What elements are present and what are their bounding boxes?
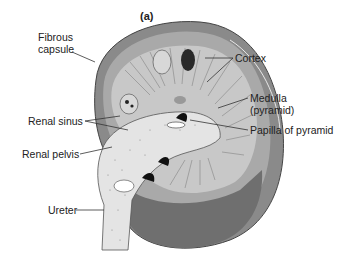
- label-fibrous-capsule-line1: Fibrous: [38, 31, 73, 43]
- label-medulla-line2: (pyramid): [250, 104, 294, 116]
- panel-label: (a): [140, 10, 153, 22]
- label-renal-sinus: Renal sinus: [28, 115, 83, 127]
- kidney-diagram: (a) Fibrous capsule Cortex Medulla (pyra…: [0, 0, 354, 259]
- label-medulla-line1: Medulla: [250, 92, 287, 104]
- label-cortex: Cortex: [235, 52, 266, 64]
- label-fibrous-capsule-line2: capsule: [38, 43, 74, 55]
- label-papilla-of-pyramid: Papilla of pyramid: [250, 124, 333, 136]
- label-ureter: Ureter: [48, 204, 77, 216]
- label-renal-pelvis: Renal pelvis: [22, 148, 79, 160]
